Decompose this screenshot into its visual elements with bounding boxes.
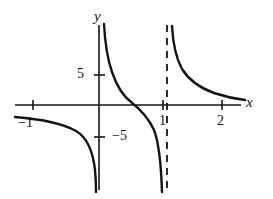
y-tick-label-minus-5: −5: [112, 129, 127, 143]
plot-canvas: [0, 0, 273, 199]
graph-figure: y x 5 −5 −1 1 2: [0, 0, 273, 199]
x-tick-label-2: 2: [217, 114, 224, 128]
y-axis-label: y: [94, 9, 101, 24]
x-axis-label: x: [246, 95, 253, 110]
curve-middle-branch: [104, 24, 162, 192]
x-tick-label-1: 1: [159, 114, 166, 128]
curve-right-branch: [172, 26, 245, 100]
x-tick-label-minus-1: −1: [18, 116, 33, 130]
y-tick-label-5: 5: [77, 67, 84, 81]
